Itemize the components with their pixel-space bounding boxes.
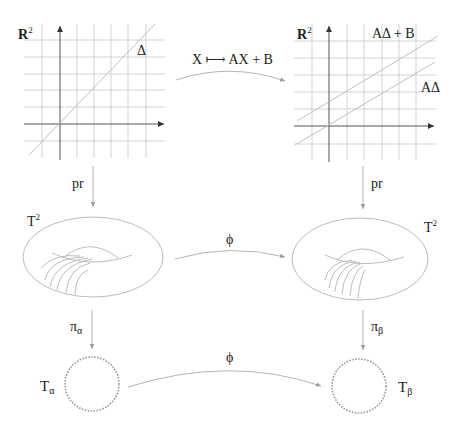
- left-pr-label: pr: [72, 177, 84, 191]
- a-delta-label: AΔ: [421, 81, 440, 95]
- a-delta-plus-b-line: [297, 36, 438, 121]
- pi-beta-label: πβ: [371, 320, 383, 336]
- right-r2-label: R2: [297, 26, 312, 42]
- phi-circle-label: ϕ: [226, 351, 233, 365]
- a-delta-plus-b-label: AΔ + B: [372, 27, 415, 41]
- phi-torus-label: ϕ: [226, 233, 233, 247]
- t-beta-circle: [332, 359, 386, 413]
- phi-circle-arrow: [128, 371, 321, 387]
- phi-torus-arrow: [175, 250, 285, 259]
- right-t2-label: T2: [424, 219, 437, 235]
- t-alpha-label: Tα: [40, 379, 54, 396]
- t-alpha-circle: [65, 357, 119, 411]
- affine-map-label: X ⟼ AX + B: [192, 53, 273, 67]
- left-t2-label: T2: [27, 213, 40, 229]
- left-torus: [23, 217, 163, 297]
- delta-label: Δ: [137, 44, 146, 58]
- left-r2-label: R2: [18, 26, 33, 42]
- affine-map-arrow: [176, 71, 285, 81]
- right-plane-grid: [294, 24, 436, 160]
- a-delta-line: [295, 62, 435, 145]
- pi-alpha-label: πα: [70, 320, 82, 336]
- t-beta-label: Tβ: [398, 380, 412, 397]
- right-torus: [292, 218, 428, 300]
- right-pr-label: pr: [371, 177, 383, 191]
